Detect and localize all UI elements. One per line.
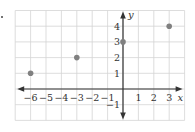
y-tick-label: 2 bbox=[114, 52, 120, 63]
grid-lines bbox=[15, 11, 184, 121]
x-tick-label: −6 bbox=[24, 92, 38, 103]
scatter-plot: −6−5−4−3−2−1123−11234 x y bbox=[0, 0, 195, 132]
y-axis-label: y bbox=[127, 9, 134, 20]
data-point bbox=[74, 55, 80, 61]
data-point bbox=[28, 71, 34, 77]
y-tick-label: 1 bbox=[114, 68, 120, 79]
x-axis-left-arrow-icon bbox=[17, 86, 24, 92]
x-tick-label: 1 bbox=[135, 92, 141, 103]
x-tick-label: −2 bbox=[85, 92, 99, 103]
x-axis-right-arrow-icon bbox=[176, 86, 183, 92]
y-axis-down-arrow-icon bbox=[120, 112, 126, 119]
x-tick-label: 3 bbox=[166, 92, 172, 103]
data-point bbox=[166, 23, 172, 29]
data-points bbox=[28, 23, 172, 76]
y-axis-up-arrow-icon bbox=[120, 12, 126, 19]
data-point bbox=[120, 39, 126, 45]
x-tick-label: −5 bbox=[39, 92, 53, 103]
x-axis-label: x bbox=[178, 92, 184, 103]
x-tick-label: −3 bbox=[70, 92, 84, 103]
y-tick-label: 4 bbox=[114, 21, 120, 32]
x-tick-label: −4 bbox=[54, 92, 68, 103]
y-tick-label: 3 bbox=[114, 36, 120, 47]
axes bbox=[17, 12, 182, 120]
y-tick-label: −1 bbox=[106, 99, 120, 110]
x-tick-label: 2 bbox=[151, 92, 157, 103]
